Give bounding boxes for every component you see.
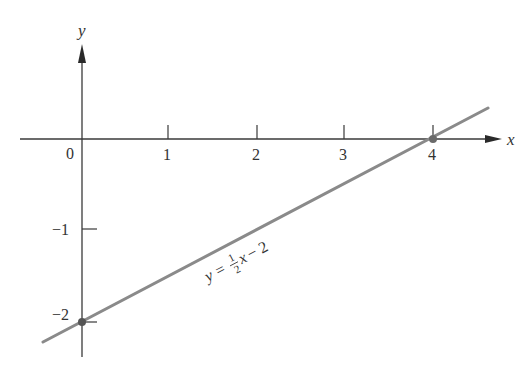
y-tick-label-neg1: −1 — [52, 221, 69, 238]
y-axis-label: y — [76, 21, 86, 40]
point-y-intercept — [78, 318, 86, 326]
point-x-intercept — [429, 135, 437, 143]
y-tick-label-neg2: −2 — [52, 306, 69, 323]
x-axis-arrow-icon — [485, 135, 502, 143]
x-tick-label-3: 3 — [339, 146, 347, 163]
svg-text:=: = — [212, 260, 228, 279]
origin-label: 0 — [66, 145, 74, 162]
x-ticks — [168, 125, 433, 139]
x-axis-label: x — [506, 130, 515, 149]
chart: x y 0 1 2 3 4 −1 −2 y = 1 2 x − 2 — [0, 0, 531, 373]
x-tick-label-1: 1 — [163, 146, 171, 163]
y-axis-arrow-icon — [78, 44, 86, 63]
equation-label: y = 1 2 x − 2 — [198, 235, 273, 290]
y-ticks — [82, 229, 97, 322]
x-tick-label-4: 4 — [428, 146, 436, 163]
svg-text:− 2: − 2 — [244, 238, 271, 263]
x-tick-label-2: 2 — [252, 146, 260, 163]
series-line — [43, 108, 488, 342]
